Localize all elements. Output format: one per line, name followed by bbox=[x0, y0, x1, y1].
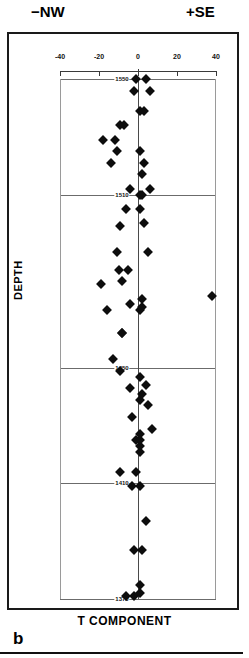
x-tick-40 bbox=[216, 71, 217, 76]
x-tick--20 bbox=[99, 71, 100, 76]
figure-panel: −NW +SE -40-2002040 13701410145015101550… bbox=[0, 0, 249, 658]
panel-label: b bbox=[13, 629, 23, 649]
footer-rule bbox=[0, 652, 243, 654]
x-tick--40 bbox=[60, 71, 61, 76]
x-tick-label-40: 40 bbox=[212, 53, 220, 60]
x-tick-label--40: -40 bbox=[55, 53, 65, 60]
x-axis-title: T COMPONENT bbox=[0, 614, 249, 628]
direction-label-left: −NW bbox=[31, 3, 65, 20]
x-tick-label--20: -20 bbox=[94, 53, 104, 60]
x-tick-20 bbox=[177, 71, 178, 76]
depth-gridline-1370 bbox=[60, 599, 216, 600]
x-tick-label-20: 20 bbox=[173, 53, 181, 60]
x-tick-label-0: 0 bbox=[136, 53, 140, 60]
x-tick-0 bbox=[138, 69, 139, 76]
zero-reference-line bbox=[138, 79, 139, 599]
y-axis-title: DEPTH bbox=[12, 260, 24, 300]
direction-label-right: +SE bbox=[186, 3, 215, 20]
